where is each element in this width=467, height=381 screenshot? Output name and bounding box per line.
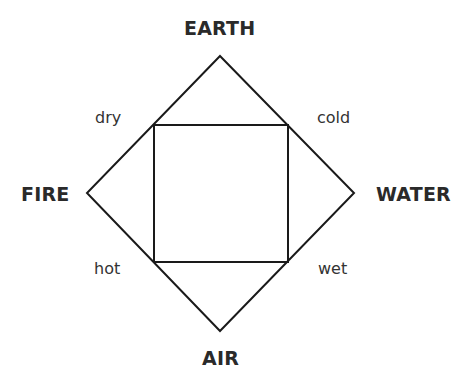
label-water: WATER <box>376 185 451 204</box>
label-earth: EARTH <box>184 19 255 38</box>
label-dry: dry <box>95 110 121 126</box>
label-wet: wet <box>318 261 347 277</box>
outer-diamond <box>87 56 354 331</box>
label-air: AIR <box>202 349 239 368</box>
inner-square <box>154 125 288 262</box>
elements-diagram: EARTH FIRE WATER AIR dry cold hot wet <box>0 0 467 381</box>
label-fire: FIRE <box>21 185 69 204</box>
label-cold: cold <box>317 110 350 126</box>
label-hot: hot <box>94 261 120 277</box>
